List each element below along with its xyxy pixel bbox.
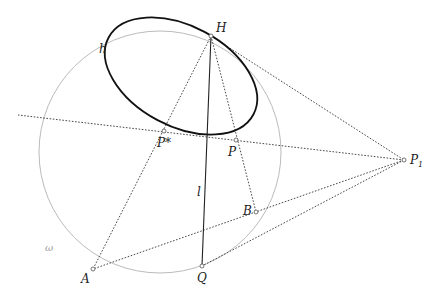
label-A: A: [80, 272, 90, 286]
label-ellipse-h: h: [99, 42, 107, 56]
label-circle-omega: ω: [45, 242, 53, 253]
point-P: [234, 138, 238, 142]
label-P: P: [227, 145, 237, 159]
label-H: H: [215, 21, 227, 35]
point-H: [209, 34, 213, 38]
line-P1-Q: [202, 160, 404, 266]
line-P1-Pstar: [18, 115, 404, 160]
circle-omega: [39, 31, 281, 273]
point-P1: [402, 158, 406, 162]
label-P1: P1: [409, 153, 423, 169]
point-A: [91, 267, 95, 271]
ellipse-h: [85, 0, 277, 159]
line-H-P1: [211, 36, 404, 160]
line-H-A: [93, 36, 211, 269]
point-B: [254, 210, 258, 214]
line-H-B: [211, 36, 256, 212]
label-Q: Q: [197, 271, 207, 285]
point-Pstar: [162, 129, 166, 133]
geometry-diagram: H P* P P1 B A Q h l ω: [0, 0, 431, 292]
line-l: [202, 36, 211, 266]
label-Pstar: P*: [156, 136, 171, 150]
label-B: B: [242, 204, 252, 218]
point-Q: [200, 264, 204, 268]
label-line-l: l: [197, 185, 201, 199]
